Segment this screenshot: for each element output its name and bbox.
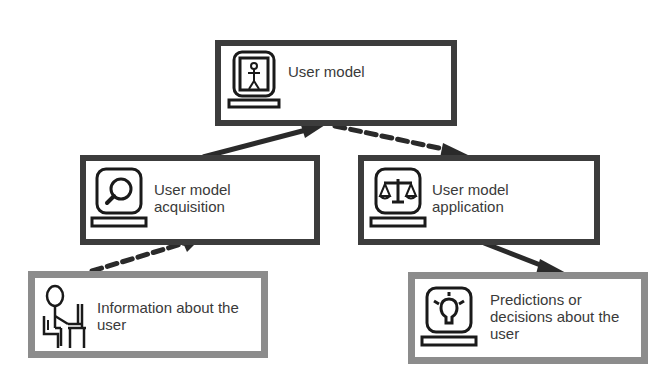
lightbulb-monitor-icon (420, 285, 480, 351)
label-line: acquisition (154, 198, 231, 215)
arrow-acquisition-to-user-model (203, 122, 325, 157)
label-line: user (490, 325, 619, 342)
node-information-about-user: Information about the user (28, 271, 268, 358)
node-label: Information about the user (97, 299, 239, 333)
label-line: Information about the (97, 299, 239, 316)
label-line: decisions about the (490, 308, 619, 325)
arrow-user-model-to-application (335, 126, 470, 158)
label-line: user (97, 316, 239, 333)
magnifier-monitor-icon (90, 166, 150, 232)
node-user-model: User model (215, 40, 457, 126)
label-line: User model (154, 181, 231, 198)
label-line: User model (432, 181, 509, 198)
person-in-monitor-icon (227, 49, 281, 115)
node-label: User model acquisition (154, 181, 231, 215)
node-label: User model application (432, 181, 509, 215)
label-line: User model (288, 63, 365, 80)
node-predictions-decisions: Predictions or decisions about the user (408, 272, 648, 364)
node-label: Predictions or decisions about the user (490, 291, 619, 342)
person-at-computer-icon (38, 280, 90, 352)
arrow-application-to-predictions (484, 243, 568, 274)
label-line: Predictions or (490, 291, 619, 308)
node-label: User model (288, 63, 365, 80)
node-user-model-application: User model application (358, 155, 600, 245)
scales-monitor-icon (369, 166, 429, 232)
node-user-model-acquisition: User model acquisition (80, 155, 320, 245)
label-line: application (432, 198, 509, 215)
